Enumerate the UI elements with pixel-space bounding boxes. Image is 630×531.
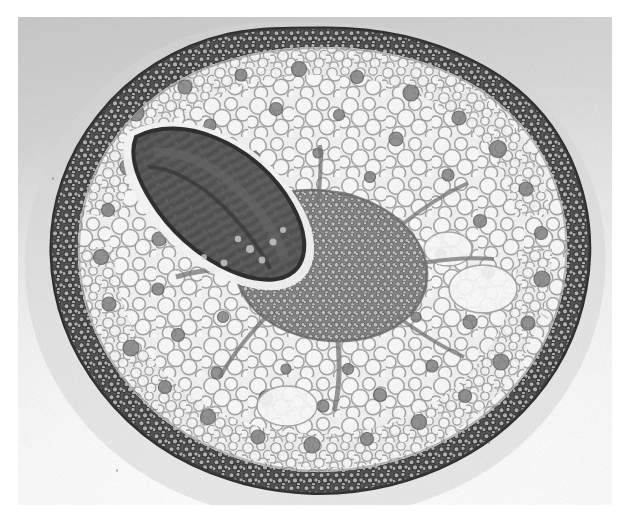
micrograph-page bbox=[0, 0, 630, 531]
film-grain bbox=[18, 17, 612, 505]
photographic-print bbox=[18, 17, 612, 505]
